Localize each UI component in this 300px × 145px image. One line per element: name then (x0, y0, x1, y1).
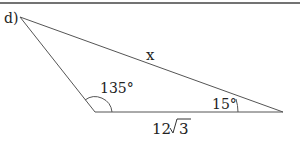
triangle-diagram: d) x 135° 15° 12 3 (0, 0, 300, 145)
side-x-label: x (146, 46, 155, 64)
base-radicand-label: 3 (179, 120, 189, 138)
angle-135-label: 135° (100, 80, 134, 96)
problem-label: d) (4, 10, 18, 26)
base-coef-label: 12 (152, 120, 171, 138)
triangle (20, 17, 283, 112)
angle-15-label: 15° (212, 96, 237, 112)
